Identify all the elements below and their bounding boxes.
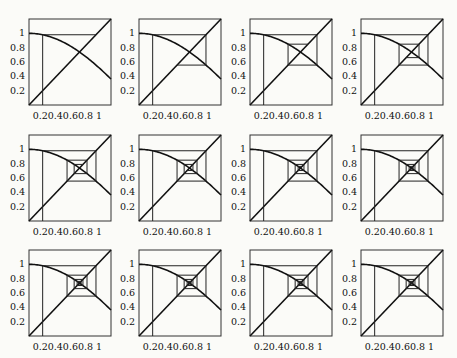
cobweb-panel-9: 1 0.8 0.6 0.4 0.2 0.20.40.60.8 1	[3, 250, 113, 358]
y-tick-label: 0.4	[337, 302, 357, 312]
diagonal-line	[29, 250, 111, 336]
cos-curve	[361, 33, 443, 79]
y-tick-label: 0.2	[5, 317, 25, 327]
diagonal-line	[361, 250, 443, 336]
x-tick-labels: 0.20.40.60.8 1	[254, 227, 324, 237]
y-tick-label: 0.4	[337, 71, 357, 81]
y-tick-label: 0.4	[226, 187, 246, 197]
diagonal-line	[250, 19, 332, 105]
diagonal-line	[361, 19, 443, 105]
y-tick-label: 0.8	[5, 43, 25, 53]
cos-curve	[29, 33, 111, 79]
y-tick-label: 0.6	[337, 57, 357, 67]
y-tick-label: 0.6	[337, 173, 357, 183]
y-tick-label: 0.2	[337, 202, 357, 212]
diagonal-line	[250, 250, 332, 336]
cobweb-panel-8: 1 0.8 0.6 0.4 0.2 0.20.40.60.8 1	[335, 135, 445, 253]
y-tick-label: 0.2	[115, 86, 135, 96]
x-tick-labels: 0.20.40.60.8 1	[254, 111, 324, 121]
diagonal-line	[139, 135, 221, 221]
diagonal-line	[29, 19, 111, 105]
y-tick-label: 1	[115, 144, 135, 154]
x-tick-labels: 0.20.40.60.8 1	[143, 111, 213, 121]
y-tick-label: 0.2	[115, 202, 135, 212]
y-tick-label: 0.2	[5, 202, 25, 212]
cos-curve	[250, 264, 332, 310]
y-tick-label: 0.6	[5, 173, 25, 183]
y-tick-label: 1	[115, 259, 135, 269]
y-tick-label: 1	[5, 259, 25, 269]
cobweb-panel-5: 1 0.8 0.6 0.4 0.2 0.20.40.60.8 1	[3, 135, 113, 253]
diagonal-line	[139, 19, 221, 105]
cos-curve	[250, 149, 332, 195]
diagonal-line	[29, 135, 111, 221]
y-tick-label: 0.2	[115, 317, 135, 327]
y-tick-label: 0.4	[5, 187, 25, 197]
y-tick-label: 0.8	[5, 274, 25, 284]
y-tick-label: 1	[337, 144, 357, 154]
y-tick-label: 0.2	[337, 86, 357, 96]
y-tick-label: 0.2	[226, 202, 246, 212]
cos-curve	[139, 149, 221, 195]
y-tick-label: 0.2	[226, 317, 246, 327]
x-tick-labels: 0.20.40.60.8 1	[33, 111, 103, 121]
y-tick-label: 0.8	[226, 274, 246, 284]
x-tick-labels: 0.20.40.60.8 1	[365, 111, 435, 121]
cobweb-panel-2: 1 0.8 0.6 0.4 0.2 0.20.40.60.8 1	[113, 19, 223, 137]
cobweb-panel-6: 1 0.8 0.6 0.4 0.2 0.20.40.60.8 1	[113, 135, 223, 253]
x-tick-labels: 0.20.40.60.8 1	[254, 342, 324, 352]
cos-curve	[139, 264, 221, 310]
cobweb-panel-10: 1 0.8 0.6 0.4 0.2 0.20.40.60.8 1	[113, 250, 223, 358]
y-tick-label: 0.4	[226, 302, 246, 312]
cobweb-panel-1: 1 0.8 0.6 0.4 0.2 0.20.40.60.8 1	[3, 19, 113, 137]
y-tick-label: 0.8	[115, 159, 135, 169]
y-tick-label: 1	[226, 259, 246, 269]
y-tick-label: 0.8	[226, 43, 246, 53]
cos-curve	[29, 149, 111, 195]
cobweb-panel-11: 1 0.8 0.6 0.4 0.2 0.20.40.60.8 1	[224, 250, 334, 358]
y-tick-label: 0.8	[337, 274, 357, 284]
diagonal-line	[361, 135, 443, 221]
y-tick-label: 0.8	[115, 43, 135, 53]
cos-curve	[139, 33, 221, 79]
y-tick-label: 0.4	[226, 71, 246, 81]
y-tick-label: 0.4	[5, 71, 25, 81]
cobweb-panel-4: 1 0.8 0.6 0.4 0.2 0.20.40.60.8 1	[335, 19, 445, 137]
y-tick-label: 1	[226, 28, 246, 38]
y-tick-label: 0.8	[226, 159, 246, 169]
cos-curve	[361, 264, 443, 310]
y-tick-label: 0.6	[337, 288, 357, 298]
y-tick-label: 1	[5, 144, 25, 154]
y-tick-label: 0.6	[226, 57, 246, 67]
y-tick-label: 0.6	[226, 173, 246, 183]
x-tick-labels: 0.20.40.60.8 1	[33, 342, 103, 352]
x-tick-labels: 0.20.40.60.8 1	[365, 227, 435, 237]
y-tick-label: 0.4	[337, 187, 357, 197]
y-tick-label: 0.6	[115, 57, 135, 67]
y-tick-label: 0.8	[115, 274, 135, 284]
y-tick-label: 0.6	[5, 57, 25, 67]
cos-curve	[361, 149, 443, 195]
y-tick-label: 1	[337, 28, 357, 38]
y-tick-label: 0.6	[115, 288, 135, 298]
y-tick-label: 1	[337, 259, 357, 269]
y-tick-label: 0.2	[226, 86, 246, 96]
y-tick-label: 0.2	[337, 317, 357, 327]
diagonal-line	[139, 250, 221, 336]
y-tick-label: 1	[115, 28, 135, 38]
x-tick-labels: 0.20.40.60.8 1	[143, 342, 213, 352]
cobweb-panel-7: 1 0.8 0.6 0.4 0.2 0.20.40.60.8 1	[224, 135, 334, 253]
y-tick-label: 0.4	[115, 71, 135, 81]
y-tick-label: 1	[5, 28, 25, 38]
y-tick-label: 0.4	[115, 302, 135, 312]
cobweb-panel-3: 1 0.8 0.6 0.4 0.2 0.20.40.60.8 1	[224, 19, 334, 137]
y-tick-label: 0.8	[337, 159, 357, 169]
y-tick-label: 0.4	[5, 302, 25, 312]
y-tick-label: 0.8	[337, 43, 357, 53]
cos-curve	[250, 33, 332, 79]
cos-curve	[29, 264, 111, 310]
y-tick-label: 0.6	[5, 288, 25, 298]
y-tick-label: 0.6	[115, 173, 135, 183]
diagonal-line	[250, 135, 332, 221]
y-tick-label: 0.4	[115, 187, 135, 197]
